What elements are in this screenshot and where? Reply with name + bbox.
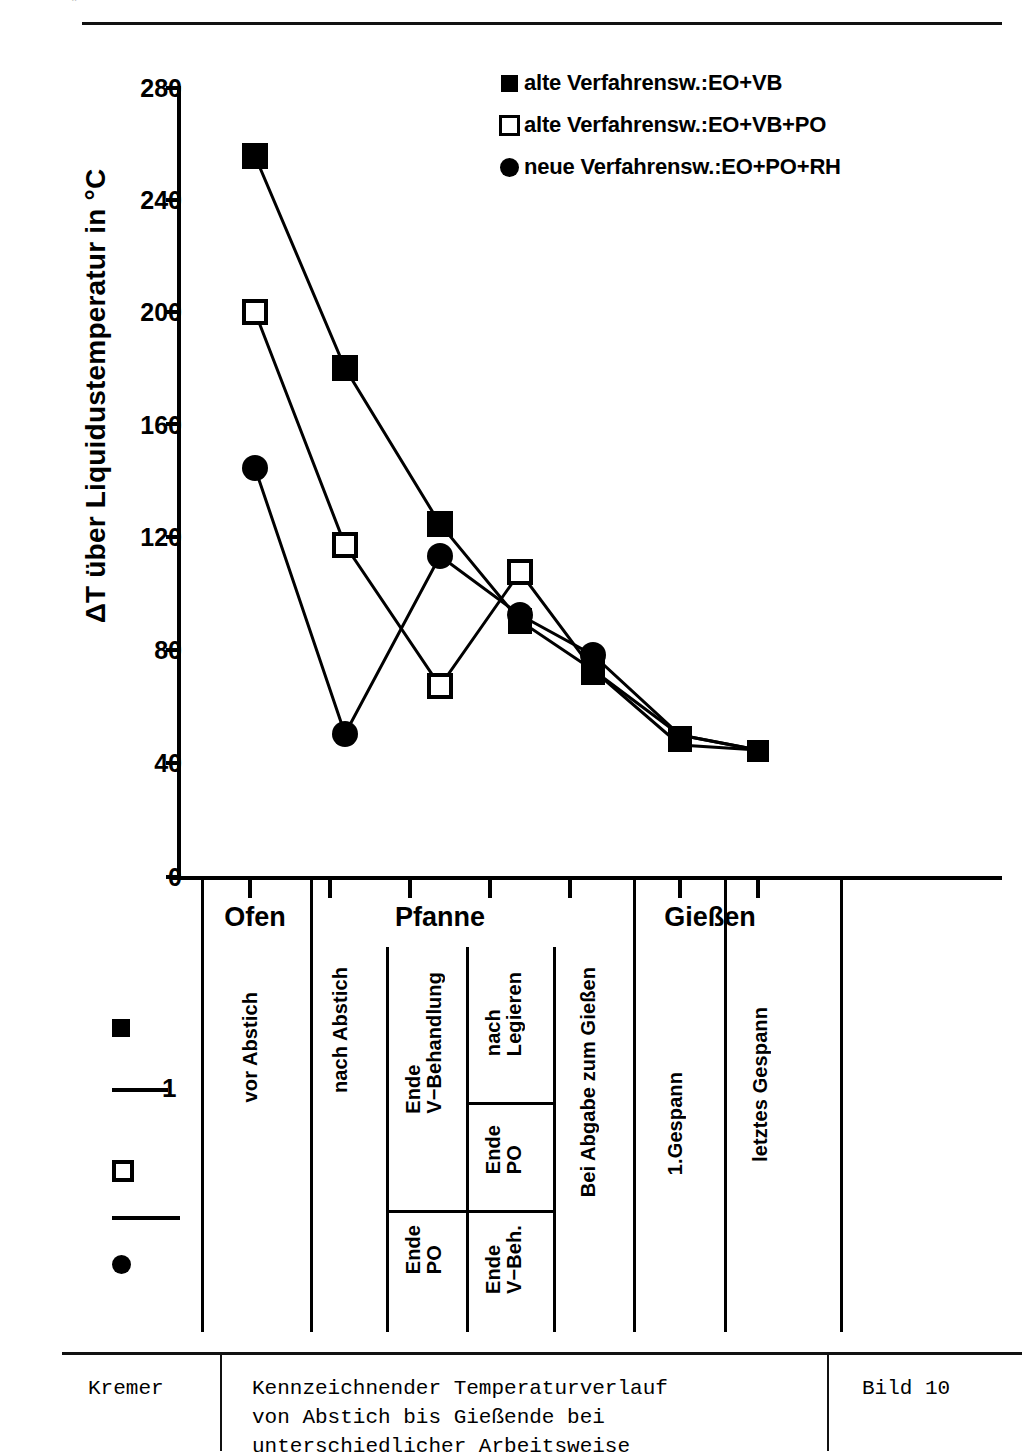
subrow-line-top — [466, 1102, 556, 1105]
y-axis-label: ΔT über Liquidustemperatur in °C — [80, 86, 112, 706]
open-square-icon — [494, 115, 524, 136]
divider-far-right — [840, 877, 843, 1332]
markers-filled-square — [242, 143, 769, 762]
mini-legend-rule — [112, 1088, 168, 1092]
subdivider-a — [386, 947, 389, 1332]
figure-caption-block: Kremer Kennzeichnender Temperaturverlauf… — [62, 1352, 1022, 1451]
section-title-giessen: Gießen — [640, 902, 780, 933]
y-tick-200: 200 — [92, 298, 182, 327]
caption-title-line-3: unterschiedlicher Arbeitsweise — [252, 1432, 630, 1456]
series-line-eo-vb — [255, 156, 758, 750]
mini-legend-rule-2 — [112, 1216, 180, 1220]
legend-item-eo-po-rh: neue Verfahrensw.:EO+PO+RH — [494, 146, 841, 188]
y-tick-240: 240 — [92, 186, 182, 215]
mini-legend-digit: 1 — [162, 1073, 176, 1103]
legend-item-eo-vb-po: alte Verfahrensw.:EO+VB+PO — [494, 104, 841, 146]
chart-legend: alte Verfahrensw.:EO+VB alte Verfahrensw… — [494, 62, 841, 188]
mini-legend-open-square — [112, 1160, 134, 1182]
divider-ofen-pfanne — [310, 877, 313, 1332]
col-label-ende-v-behandlung: Ende V−Behandlung — [403, 972, 445, 1114]
caption-title-line-2: von Abstich bis Gießende bei — [252, 1403, 605, 1432]
y-tick-280: 280 — [92, 74, 182, 103]
filled-square-icon — [494, 75, 524, 92]
col-label-bei-abgabe: Bei Abgabe zum Gießen — [578, 967, 599, 1197]
divider-pfanne-giessen — [633, 877, 636, 1332]
y-tick-120: 120 — [92, 523, 182, 552]
col-label-erstes-gespann: 1.Gespann — [665, 1072, 686, 1175]
caption-divider-right — [827, 1355, 829, 1451]
col-label-ende-po-bottom: Ende PO — [403, 1225, 445, 1274]
col-label-vor-abstich: vor Abstich — [240, 992, 261, 1102]
legend-label: alte Verfahrensw.:EO+VB — [524, 70, 782, 96]
col-label-nach-legieren: nach Legieren — [483, 972, 525, 1056]
subdivider-c — [553, 947, 556, 1332]
caption-title-line-1: Kennzeichnender Temperaturverlauf — [252, 1374, 668, 1403]
col-label-ende-v-beh-bottom: Ende V−Beh. — [483, 1225, 525, 1294]
mini-legend-filled-circle — [112, 1255, 131, 1274]
subdivider-b — [466, 947, 469, 1332]
divider-giessen-right — [724, 877, 727, 1332]
legend-label: neue Verfahrensw.:EO+PO+RH — [524, 154, 841, 180]
series-line-eo-vb-po — [255, 312, 758, 750]
caption-top-rule — [62, 1352, 1022, 1355]
subrow-line-bottom — [386, 1210, 556, 1213]
section-title-pfanne: Pfanne — [370, 902, 510, 933]
filled-circle-icon — [494, 158, 524, 177]
caption-divider-left — [220, 1355, 222, 1451]
col-label-letztes-gespann: letztes Gespann — [750, 1007, 771, 1162]
col-label-ende-po-mid: Ende PO — [483, 1125, 525, 1174]
legend-item-eo-vb: alte Verfahrensw.:EO+VB — [494, 62, 841, 104]
section-title-ofen: Ofen — [200, 902, 310, 933]
mini-legend-row-marker: 1 — [112, 1075, 176, 1101]
y-tick-40: 40 — [92, 749, 182, 778]
chart-plot-area: ΔT über Liquidustemperatur in °C 280 240… — [0, 0, 1023, 900]
x-axis-label-grid: Ofen Pfanne Gießen vor Abstich nach Abst… — [0, 877, 1023, 1332]
mini-legend-filled-square — [112, 1019, 130, 1037]
caption-figure-number: Bild 10 — [862, 1374, 950, 1403]
y-tick-80: 80 — [92, 636, 182, 665]
y-tick-160: 160 — [92, 411, 182, 440]
markers-open-square — [244, 301, 531, 697]
caption-author: Kremer — [88, 1374, 164, 1403]
divider-left-edge — [201, 877, 204, 1332]
legend-label: alte Verfahrensw.:EO+VB+PO — [524, 112, 826, 138]
col-label-nach-abstich: nach Abstich — [330, 967, 351, 1093]
